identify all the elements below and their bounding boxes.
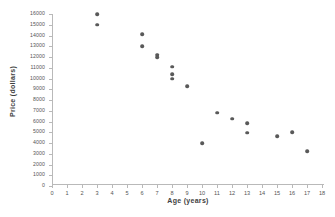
- y-tick-label: 7000: [33, 107, 45, 114]
- scatter-chart: 0100020003000400050006000700080009000100…: [0, 0, 335, 217]
- data-point: [140, 33, 144, 37]
- data-point: [275, 134, 279, 138]
- x-axis-title: Age (years): [52, 197, 324, 204]
- y-tick: 8000: [49, 100, 53, 101]
- x-tick-label: 4: [110, 189, 113, 197]
- data-point: [230, 117, 234, 121]
- x-tick-label: 5: [125, 189, 128, 197]
- data-point: [170, 77, 174, 81]
- x-tick-label: 11: [214, 189, 220, 197]
- y-axis-title: Price (dollars): [9, 52, 16, 132]
- x-tick: [247, 184, 248, 188]
- y-tick: 1000: [49, 175, 53, 176]
- x-tick: [157, 184, 158, 188]
- y-tick: 14000: [49, 36, 53, 37]
- y-tick-label: 12000: [30, 53, 45, 60]
- data-point: [200, 141, 204, 145]
- x-tick-label: 6: [140, 189, 143, 197]
- y-tick: 7000: [49, 111, 53, 112]
- y-tick: 2000: [49, 165, 53, 166]
- y-tick-label: 9000: [33, 85, 45, 92]
- x-tick: [322, 184, 323, 188]
- data-point: [290, 130, 294, 134]
- y-tick: 10000: [49, 79, 53, 80]
- x-tick-label: 16: [289, 189, 295, 197]
- plot-area: 0100020003000400050006000700080009000100…: [52, 14, 322, 186]
- y-tick: 5000: [49, 132, 53, 133]
- y-tick-label: 16000: [30, 10, 45, 17]
- x-tick: [202, 184, 203, 188]
- x-tick-label: 0: [50, 189, 53, 197]
- x-tick-label: 8: [170, 189, 173, 197]
- y-tick: 16000: [49, 14, 53, 15]
- data-point: [95, 23, 99, 27]
- x-tick-label: 17: [304, 189, 310, 197]
- data-point: [185, 84, 189, 88]
- x-tick: [67, 184, 68, 188]
- y-tick-label: 8000: [33, 96, 45, 103]
- y-tick-label: 10000: [30, 75, 45, 82]
- y-tick-label: 3000: [33, 150, 45, 157]
- x-tick: [277, 184, 278, 188]
- x-tick: [82, 184, 83, 188]
- y-tick-label: 13000: [30, 42, 45, 49]
- y-tick: 13000: [49, 46, 53, 47]
- data-point: [245, 121, 249, 125]
- data-point: [95, 12, 99, 16]
- x-tick: [292, 184, 293, 188]
- x-tick-label: 10: [199, 189, 205, 197]
- data-point: [170, 65, 174, 69]
- y-tick: 3000: [49, 154, 53, 155]
- data-point: [305, 149, 309, 153]
- y-tick-label: 15000: [30, 21, 45, 28]
- y-tick: 6000: [49, 122, 53, 123]
- x-tick-label: 15: [274, 189, 280, 197]
- x-tick-label: 12: [229, 189, 235, 197]
- y-tick-label: 0: [42, 182, 45, 189]
- x-tick: [97, 184, 98, 188]
- y-tick: 9000: [49, 89, 53, 90]
- x-tick: [187, 184, 188, 188]
- y-tick-label: 5000: [33, 128, 45, 135]
- data-point: [170, 72, 174, 76]
- y-tick-label: 11000: [30, 64, 45, 71]
- data-point: [140, 44, 144, 48]
- y-tick: 11000: [49, 68, 53, 69]
- y-tick-label: 14000: [30, 32, 45, 39]
- x-tick-label: 7: [155, 189, 158, 197]
- y-tick: 4000: [49, 143, 53, 144]
- x-tick: [172, 184, 173, 188]
- x-tick-label: 3: [95, 189, 98, 197]
- x-tick-label: 14: [259, 189, 265, 197]
- x-tick: [217, 184, 218, 188]
- x-tick-label: 2: [80, 189, 83, 197]
- x-tick: [112, 184, 113, 188]
- x-tick: [232, 184, 233, 188]
- x-tick: [262, 184, 263, 188]
- y-tick-label: 2000: [33, 161, 45, 168]
- y-tick: 12000: [49, 57, 53, 58]
- x-tick-label: 13: [244, 189, 250, 197]
- y-tick-label: 1000: [33, 171, 45, 178]
- data-point: [155, 55, 159, 59]
- x-tick: [127, 184, 128, 188]
- x-tick-label: 18: [319, 189, 325, 197]
- data-point: [215, 111, 219, 115]
- y-tick-label: 6000: [33, 118, 45, 125]
- x-tick: [142, 184, 143, 188]
- x-tick: [307, 184, 308, 188]
- y-tick: 15000: [49, 25, 53, 26]
- x-tick-label: 1: [65, 189, 68, 197]
- x-tick: [52, 184, 53, 188]
- x-tick-label: 9: [185, 189, 188, 197]
- data-point: [245, 131, 249, 135]
- y-tick-label: 4000: [33, 139, 45, 146]
